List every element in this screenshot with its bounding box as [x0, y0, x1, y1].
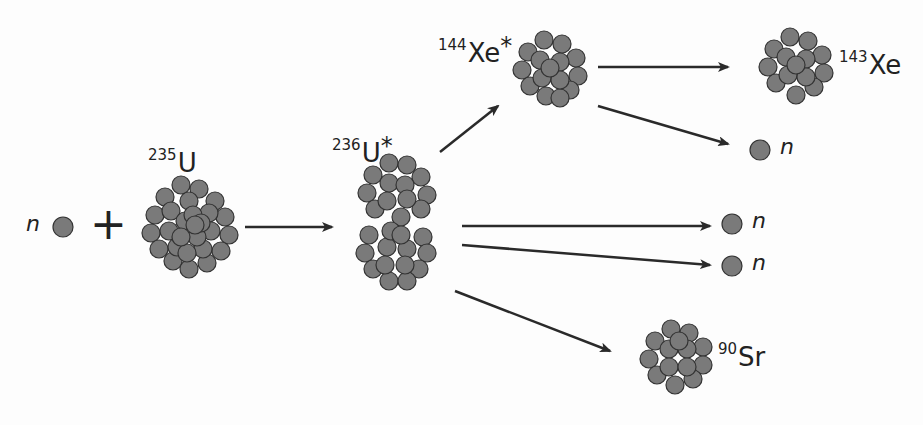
u236-nucleus [356, 154, 436, 290]
arrows [245, 67, 728, 351]
xe143-label: 143Xe [839, 50, 901, 80]
xe144-mass-number: 144 [438, 36, 467, 54]
sr90-label: 90Sr [718, 342, 765, 372]
xe144-symbol: Xe [468, 38, 501, 68]
product-neutron-1 [750, 140, 770, 160]
u236-label: 236U* [332, 138, 394, 168]
product-neutron-2-label: n [752, 208, 766, 233]
xe143-nucleus [759, 28, 833, 104]
arrow-to-xe144 [440, 106, 498, 152]
product-neutron-3-label: n [752, 250, 766, 275]
sr90-mass-number: 90 [718, 340, 737, 358]
incoming-neutron-label: n [26, 211, 40, 236]
product-neutron-2 [722, 214, 742, 234]
incoming-neutron [53, 217, 73, 237]
arrow-to-sr90 [455, 291, 610, 351]
arrow-to-neutron1 [598, 106, 728, 144]
u235-mass-number: 235 [148, 146, 177, 164]
xe144-excited-mark: * [500, 32, 512, 60]
xe143-mass-number: 143 [839, 48, 868, 66]
plus-sign: + [90, 198, 127, 249]
u236-mass-number: 236 [332, 136, 361, 154]
fission-diagram: n + 235U 236U* 144Xe* 143Xe 90Sr n n n [0, 0, 923, 425]
u235-label: 235U [148, 148, 197, 178]
product-neutron-1-label: n [780, 134, 794, 159]
u236-excited-mark: * [381, 132, 393, 160]
xe143-symbol: Xe [869, 50, 902, 80]
u235-nucleus [142, 176, 238, 278]
sr90-symbol: Sr [738, 342, 765, 372]
xe144-nucleus [513, 31, 587, 107]
sr90-nucleus [640, 320, 712, 394]
u235-symbol: U [178, 148, 197, 178]
u236-symbol: U [362, 138, 381, 168]
xe144-label: 144Xe* [438, 38, 513, 68]
arrow-to-neutron3 [462, 245, 710, 265]
product-neutron-3 [722, 256, 742, 276]
